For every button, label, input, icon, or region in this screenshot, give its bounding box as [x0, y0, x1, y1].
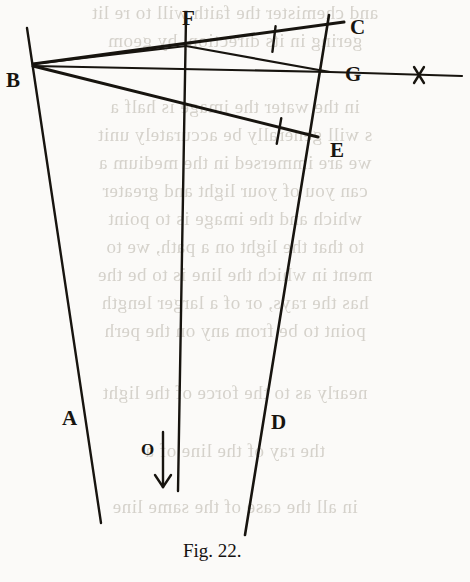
tick-on-BE: [277, 118, 282, 144]
vertex-label-e: E: [330, 140, 344, 161]
tick-on-BC: [272, 26, 275, 52]
vertex-label-c: C: [350, 17, 365, 38]
diagram-arrow: [155, 432, 171, 487]
figure-caption: Fig. 22.: [183, 541, 242, 560]
line-center-vertical: [178, 18, 186, 491]
vertex-label-f: F: [182, 8, 195, 29]
figure-page: and chemister the faith will to re litge…: [0, 0, 470, 582]
vertex-label-g: G: [345, 64, 361, 85]
vertex-label-a: A: [62, 408, 77, 429]
line-D-right-vertical: [245, 15, 329, 535]
diagram-lines: [27, 15, 462, 535]
line-F-to-G: [186, 46, 330, 72]
line-B-horizontal-to-G: [33, 66, 330, 72]
line-B-to-F-G: [33, 46, 186, 64]
line-A-left-vertical: [27, 28, 101, 523]
geometry-diagram: [0, 0, 470, 582]
vertex-label-o: O: [141, 441, 154, 458]
vertex-label-d: D: [271, 412, 286, 433]
vertex-label-b: B: [6, 70, 20, 91]
line-B-to-E: [33, 66, 318, 137]
